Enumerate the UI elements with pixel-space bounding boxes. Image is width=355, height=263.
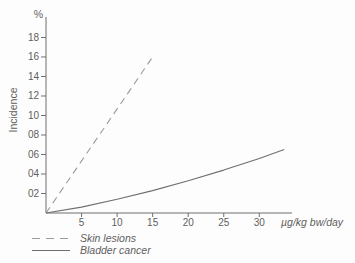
y-tick-label: 04 (28, 168, 40, 179)
legend: Skin lesions Bladder cancer (32, 232, 151, 256)
dashed-line-sample (32, 238, 70, 239)
x-tick-label: 10 (112, 217, 124, 228)
x-tick-label: 25 (218, 217, 230, 228)
y-tick-label: 14 (28, 71, 40, 82)
y-tick-label: 16 (28, 51, 40, 62)
legend-item-skin-lesions: Skin lesions (32, 232, 151, 244)
legend-item-bladder-cancer: Bladder cancer (32, 244, 151, 256)
y-tick-label: 12 (28, 90, 40, 101)
x-tick-label: 20 (183, 217, 195, 228)
y-tick-label: 18 (28, 32, 40, 43)
x-tick-label: 30 (254, 217, 266, 228)
y-tick-label: 10 (28, 110, 40, 121)
x-tick-label: 5 (79, 217, 85, 228)
y-tick-label: 08 (28, 129, 40, 140)
y-tick-label: 06 (28, 149, 40, 160)
x-tick-label: 15 (147, 217, 159, 228)
legend-label-skin-lesions: Skin lesions (80, 232, 136, 244)
solid-line-sample (32, 250, 70, 251)
x-axis-unit-label: µg/kg bw/day (281, 216, 343, 228)
dose-response-chart: % Incidence 0204060810121416185101520253… (0, 0, 355, 263)
legend-label-bladder-cancer: Bladder cancer (80, 244, 151, 256)
series-line-skin-lesions (46, 57, 153, 213)
series-line-bladder-cancer (46, 150, 284, 213)
y-tick-label: 02 (28, 188, 40, 199)
